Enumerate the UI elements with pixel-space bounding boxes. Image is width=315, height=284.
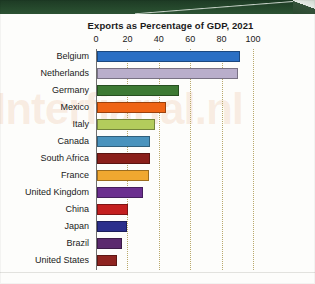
bar-row: Italy	[0, 117, 315, 134]
x-axis-ticks: 020406080100	[0, 34, 315, 47]
bar-chart: Exports as Percentage of GDP, 2021 02040…	[0, 14, 315, 284]
bar-row: Brazil	[0, 236, 315, 253]
bar	[97, 204, 128, 215]
bar	[97, 187, 143, 198]
plot-area: BelgiumNetherlandsGermanyMexicoItalyCana…	[0, 49, 315, 271]
category-label: Netherlands	[40, 68, 89, 79]
bar	[97, 238, 122, 249]
bar-row: Germany	[0, 83, 315, 100]
x-tick-label: 20	[122, 34, 132, 44]
bar	[97, 51, 240, 62]
category-label: China	[65, 204, 89, 215]
category-label: Canada	[57, 136, 89, 147]
category-label: South Africa	[40, 153, 89, 164]
bar	[97, 102, 166, 113]
bar	[97, 136, 150, 147]
bar-row: Canada	[0, 134, 315, 151]
bar	[97, 170, 149, 181]
x-tick-label: 100	[245, 34, 260, 44]
bar-rows: BelgiumNetherlandsGermanyMexicoItalyCana…	[0, 49, 315, 270]
bar	[97, 119, 155, 130]
category-label: Mexico	[60, 102, 89, 113]
category-label: United States	[35, 255, 89, 266]
x-tick-label: 0	[93, 34, 98, 44]
green-photo-band	[0, 0, 315, 14]
bar	[97, 153, 150, 164]
band-streak	[135, 0, 315, 14]
category-label: France	[61, 170, 89, 181]
bottom-rule	[0, 272, 315, 273]
bar-row: United Kingdom	[0, 185, 315, 202]
bar-row: Belgium	[0, 49, 315, 66]
bar	[97, 221, 127, 232]
chart-page: Interfiarial.nl Exports as Percentage of…	[0, 0, 315, 284]
bar-row: United States	[0, 253, 315, 270]
band-corner	[293, 0, 315, 14]
category-label: Germany	[52, 85, 89, 96]
bar-row: China	[0, 202, 315, 219]
category-label: United Kingdom	[25, 187, 89, 198]
category-label: Japan	[64, 221, 89, 232]
bar	[97, 255, 117, 266]
chart-title: Exports as Percentage of GDP, 2021	[0, 20, 315, 31]
bar	[97, 68, 238, 79]
bar-row: Mexico	[0, 100, 315, 117]
x-tick-label: 60	[185, 34, 195, 44]
category-label: Italy	[72, 119, 89, 130]
bar-row: South Africa	[0, 151, 315, 168]
x-tick-label: 40	[154, 34, 164, 44]
bar-row: Netherlands	[0, 66, 315, 83]
bar-row: France	[0, 168, 315, 185]
bar-row: Japan	[0, 219, 315, 236]
bar	[97, 85, 179, 96]
category-label: Brazil	[66, 238, 89, 249]
x-tick-label: 80	[217, 34, 227, 44]
category-label: Belgium	[56, 51, 89, 62]
